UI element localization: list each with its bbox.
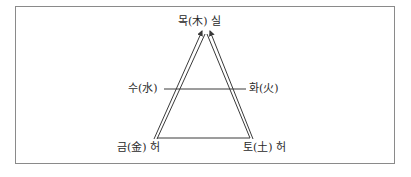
label-bottom-right: 토(土) 허 <box>243 141 286 154</box>
label-top: 목(木) 실 <box>178 15 221 28</box>
label-bottom-left: 금(金) 허 <box>117 141 160 154</box>
left-outer-arrow <box>154 31 202 139</box>
right-inner-line <box>207 34 250 138</box>
left-inner-line <box>157 34 205 139</box>
right-outer-arrow <box>210 31 253 139</box>
label-right-mid: 화(火) <box>249 82 279 95</box>
label-left-mid: 수(水) <box>128 82 158 95</box>
